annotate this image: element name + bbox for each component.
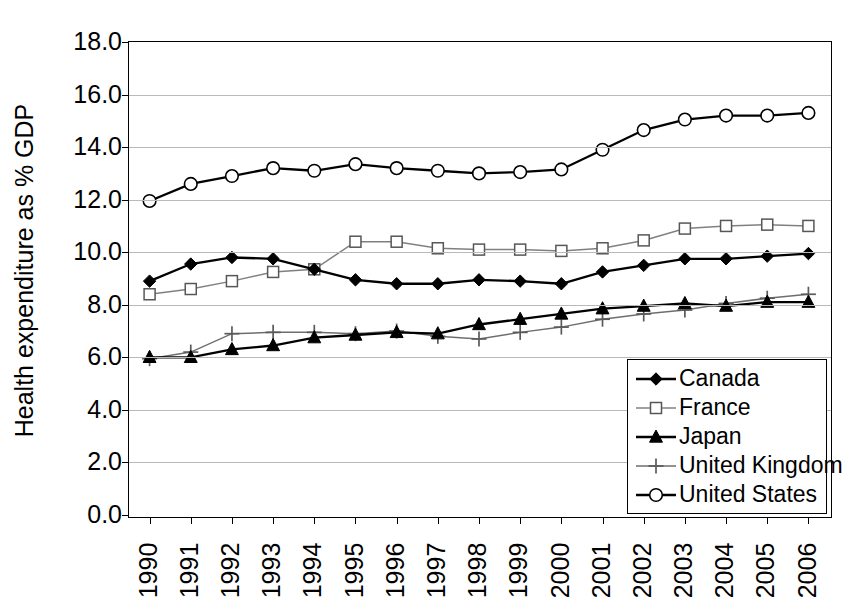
data-point-open-square bbox=[474, 244, 485, 255]
x-tick-label: 2006 bbox=[792, 524, 822, 602]
data-point-open-square bbox=[185, 284, 196, 295]
data-point-open-circle bbox=[390, 162, 403, 175]
y-axis-tick-labels: 18.016.014.012.010.08.06.04.02.00.0 bbox=[36, 0, 122, 605]
data-point-plus bbox=[513, 325, 528, 340]
x-tick-mark bbox=[561, 517, 562, 524]
x-tick-label-text: 2002 bbox=[630, 543, 655, 599]
legend-item-united-kingdom[interactable]: United Kingdom bbox=[628, 451, 826, 480]
x-tick-label: 2002 bbox=[628, 524, 658, 602]
y-tick-mark bbox=[122, 252, 129, 253]
y-tick-mark bbox=[122, 200, 129, 201]
data-point-filled-diamond bbox=[349, 274, 361, 286]
x-tick-mark bbox=[314, 517, 315, 524]
y-tick-label: 10.0 bbox=[38, 239, 122, 264]
y-tick-mark bbox=[122, 462, 129, 463]
gridline bbox=[129, 147, 831, 148]
x-tick-label-text: 1990 bbox=[136, 543, 161, 599]
y-tick-label: 18.0 bbox=[38, 29, 122, 54]
x-tick-label-text: 2000 bbox=[548, 543, 573, 599]
y-tick-mark bbox=[122, 410, 129, 411]
x-tick-label-text: 2006 bbox=[795, 543, 820, 599]
x-tick-mark bbox=[191, 517, 192, 524]
x-tick-label: 2000 bbox=[545, 524, 575, 602]
x-tick-label: 1997 bbox=[422, 524, 452, 602]
x-tick-label-text: 1994 bbox=[301, 543, 326, 599]
data-point-plus bbox=[472, 331, 487, 346]
data-point-filled-diamond bbox=[802, 247, 814, 259]
x-tick-label: 1994 bbox=[298, 524, 328, 602]
data-point-filled-diamond bbox=[390, 278, 402, 290]
legend-label: United States bbox=[677, 483, 817, 506]
gridline bbox=[129, 305, 831, 306]
y-tick-mark bbox=[122, 42, 129, 43]
data-point-open-square bbox=[679, 223, 690, 234]
data-point-filled-diamond bbox=[185, 258, 197, 270]
y-tick-label: 6.0 bbox=[38, 344, 122, 369]
x-tick-label-text: 1997 bbox=[424, 543, 449, 599]
data-point-open-square bbox=[350, 236, 361, 247]
data-point-filled-diamond bbox=[473, 274, 485, 286]
x-tick-mark bbox=[808, 517, 809, 524]
x-tick-label: 1999 bbox=[504, 524, 534, 602]
data-point-filled-diamond bbox=[638, 259, 650, 271]
series-united-states bbox=[143, 107, 814, 208]
legend-marker-filled-diamond-icon bbox=[635, 369, 677, 389]
data-point-open-circle bbox=[267, 162, 280, 175]
y-tick-mark bbox=[122, 147, 129, 148]
legend-item-france[interactable]: France bbox=[628, 393, 826, 422]
data-point-open-circle bbox=[761, 109, 774, 122]
legend-label: Canada bbox=[677, 367, 760, 390]
data-point-open-circle bbox=[143, 195, 156, 208]
data-point-open-square bbox=[144, 289, 155, 300]
x-tick-label-text: 1993 bbox=[260, 543, 285, 599]
data-point-open-circle bbox=[184, 178, 197, 191]
x-tick-label: 1990 bbox=[134, 524, 164, 602]
x-tick-mark bbox=[767, 517, 768, 524]
x-tick-label: 1998 bbox=[463, 524, 493, 602]
x-tick-mark bbox=[438, 517, 439, 524]
data-point-filled-diamond bbox=[432, 278, 444, 290]
data-point-filled-diamond bbox=[596, 266, 608, 278]
x-tick-label: 1995 bbox=[339, 524, 369, 602]
y-tick-mark bbox=[122, 515, 129, 516]
gridline bbox=[129, 200, 831, 201]
data-point-open-square bbox=[268, 266, 279, 277]
series-line bbox=[150, 113, 809, 201]
data-point-filled-triangle bbox=[678, 296, 691, 308]
x-tick-mark bbox=[150, 517, 151, 524]
legend-item-japan[interactable]: Japan bbox=[628, 422, 826, 451]
data-point-open-square bbox=[556, 245, 567, 256]
data-point-open-circle bbox=[226, 170, 239, 183]
x-tick-label-text: 1995 bbox=[342, 543, 367, 599]
data-point-open-square bbox=[762, 219, 773, 230]
y-tick-label: 2.0 bbox=[38, 449, 122, 474]
y-tick-label: 4.0 bbox=[38, 396, 122, 421]
data-point-open-square bbox=[803, 220, 814, 231]
data-point-filled-diamond bbox=[555, 278, 567, 290]
data-point-plus bbox=[649, 458, 664, 473]
gridline bbox=[129, 252, 831, 253]
x-tick-mark bbox=[603, 517, 604, 524]
legend-item-canada[interactable]: Canada bbox=[628, 364, 826, 393]
data-point-filled-diamond bbox=[267, 253, 279, 265]
data-point-filled-diamond bbox=[720, 253, 732, 265]
data-point-filled-diamond bbox=[514, 275, 526, 287]
y-tick-label: 12.0 bbox=[38, 186, 122, 211]
x-tick-label-text: 1996 bbox=[383, 543, 408, 599]
data-point-open-circle bbox=[596, 143, 609, 156]
x-tick-label-text: 1998 bbox=[466, 543, 491, 599]
legend-item-united-states[interactable]: United States bbox=[628, 480, 826, 509]
y-tick-label: 8.0 bbox=[38, 291, 122, 316]
y-tick-mark bbox=[122, 305, 129, 306]
x-tick-label-text: 2005 bbox=[754, 543, 779, 599]
y-tick-mark bbox=[122, 95, 129, 96]
x-tick-label-text: 1999 bbox=[507, 543, 532, 599]
data-point-open-circle bbox=[679, 113, 692, 126]
data-point-open-circle bbox=[555, 163, 568, 176]
x-tick-mark bbox=[520, 517, 521, 524]
data-point-open-square bbox=[651, 402, 662, 413]
data-point-open-circle bbox=[432, 164, 445, 177]
data-point-open-circle bbox=[650, 488, 663, 501]
data-point-open-square bbox=[638, 235, 649, 246]
data-point-open-circle bbox=[308, 164, 321, 177]
